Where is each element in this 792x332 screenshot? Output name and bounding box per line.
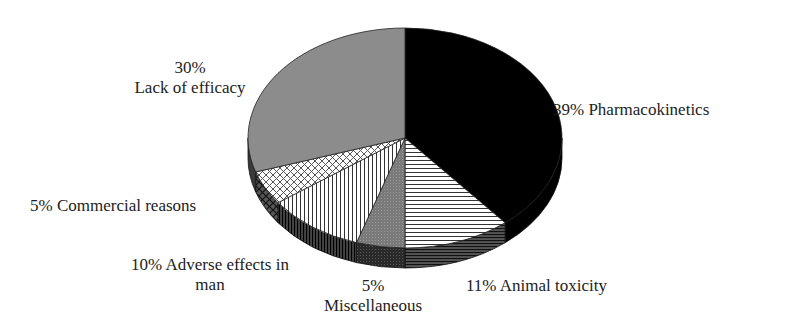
label-lack-of-efficacy: 30% Lack of efficacy bbox=[110, 58, 270, 98]
label-efficacy-pct: 30% bbox=[110, 58, 270, 78]
label-miscellaneous-pct: 5% bbox=[318, 276, 428, 296]
label-adverse-line2: man bbox=[100, 275, 320, 295]
label-miscellaneous-name: Miscellaneous bbox=[318, 296, 428, 316]
label-miscellaneous: 5% Miscellaneous bbox=[318, 276, 428, 316]
label-adverse-effects: 10% Adverse effects in man bbox=[100, 255, 320, 295]
label-pharmacokinetics: 39% Pharmacokinetics bbox=[553, 100, 709, 120]
pie-tops bbox=[248, 28, 562, 248]
label-adverse-line1: 10% Adverse effects in bbox=[100, 255, 320, 275]
label-commercial-reasons: 5% Commercial reasons bbox=[30, 196, 196, 216]
label-efficacy-name: Lack of efficacy bbox=[110, 78, 270, 98]
label-animal-toxicity: 11% Animal toxicity bbox=[466, 276, 607, 296]
